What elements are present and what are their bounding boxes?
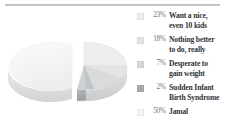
pie-slice-jamal [10, 43, 72, 91]
legend-label-line1: Want a nice, [169, 11, 208, 20]
legend-label-line2: to do, really [169, 45, 225, 55]
legend-label: Nothing betterto do, really [169, 35, 225, 55]
legend-item-want-nice-even-10-kids[interactable]: 23% Want a nice,even 10 kids [137, 11, 225, 31]
legend-swatch-nothing-better-to-do [137, 37, 144, 44]
legend-swatch-desperate-gain-weight [137, 61, 144, 68]
legend-item-nothing-better-to-do[interactable]: 18% Nothing betterto do, really [137, 35, 225, 55]
legend-swatch-jamal [137, 109, 144, 116]
legend: 23% Want a nice,even 10 kids 18% Nothing… [137, 9, 225, 135]
pie-svg [2, 22, 134, 114]
legend-item-desperate-gain-weight[interactable]: 7% Desperate togain weight [137, 59, 225, 79]
pie-slice-side-sudden-infant [77, 89, 86, 101]
legend-label-line2: gain weight [169, 69, 225, 79]
legend-label-line2: Birth Syndrome [169, 93, 225, 103]
legend-swatch-sudden-infant-birth-syndrome [137, 85, 144, 92]
legend-percent: 18% [146, 35, 166, 45]
legend-percent: 7% [146, 59, 166, 69]
legend-percent: 50% [146, 107, 166, 117]
legend-label: Sudden InfantBirth Syndrome [169, 83, 225, 103]
legend-swatch-want-nice-even-10-kids [137, 13, 144, 20]
legend-item-jamal[interactable]: 50% Jamal [137, 107, 225, 117]
legend-label-line1: Nothing better [169, 35, 214, 44]
legend-percent: 2% [146, 83, 166, 93]
legend-label: Want a nice,even 10 kids [169, 11, 225, 31]
pie-chart-graphic [2, 22, 134, 114]
legend-label-line2: even 10 kids [169, 21, 225, 31]
top-divider-rule [5, 4, 220, 6]
legend-label: Desperate togain weight [169, 59, 225, 79]
legend-label: Jamal [169, 107, 225, 117]
legend-label-line1: Desperate to [169, 59, 208, 68]
legend-label-line1: Jamal [169, 107, 188, 116]
legend-percent: 23% [146, 11, 166, 21]
pie-chart-figure: 23% Want a nice,even 10 kids 18% Nothing… [0, 0, 225, 137]
legend-item-sudden-infant-birth-syndrome[interactable]: 2% Sudden InfantBirth Syndrome [137, 83, 225, 103]
pie-slice-want-nice-even-10-kids [84, 42, 127, 66]
legend-label-line1: Sudden Infant [169, 83, 214, 92]
